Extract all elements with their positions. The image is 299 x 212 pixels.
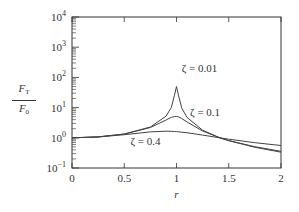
- y-tick-label: 10−1: [46, 160, 66, 174]
- y-tick-label: 101: [51, 100, 66, 114]
- x-tick-label: 0.5: [117, 172, 131, 184]
- curve-annotation-2: ζ = 0.4: [131, 135, 162, 148]
- y-tick-label: 100: [51, 130, 66, 144]
- y-tick-label: 102: [51, 69, 66, 83]
- y-tick-label: 104: [51, 9, 66, 23]
- x-tick-label: 2: [278, 172, 284, 184]
- x-tick-label: 1.5: [222, 172, 236, 184]
- curve-series-2: [72, 131, 281, 145]
- x-tick-label: 0: [69, 172, 75, 184]
- curve-annotation-0: ζ = 0.01: [182, 62, 218, 75]
- transmissibility-chart: 00.511.5210410310210110010−1ζ = 0.01ζ = …: [0, 0, 299, 212]
- x-axis-label: r: [174, 188, 179, 200]
- y-tick-label: 103: [51, 39, 66, 53]
- curve-annotation-1: ζ = 0.1: [190, 106, 220, 119]
- x-tick-label: 1: [174, 172, 180, 184]
